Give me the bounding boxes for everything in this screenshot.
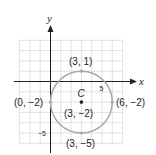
x-tick-label-5: 5 [100,85,104,92]
x-axis-arrow-icon [130,79,137,85]
y-tick-label-neg5: −5 [38,130,46,137]
point-bottom-label: (3, −5) [66,138,95,149]
point-right-label: (6, −2) [116,97,145,108]
point-top-label: (3, 1) [69,56,92,67]
y-axis-label: y [46,12,52,24]
center-dot [80,100,84,104]
point-right [111,101,114,104]
y-axis-arrow-icon [48,25,54,32]
point-bottom [80,131,83,134]
point-left-label: (0, −2) [14,97,43,108]
point-top [80,70,83,73]
coordinate-plane: x y 5 −5 (3, 1) (0, −2) (6, −2) (3, −5) … [0,0,156,155]
x-axis-label: x [138,75,144,87]
center-name-label: C [78,88,86,99]
center-coord-label: (3, −2) [64,108,93,119]
point-left [49,101,52,104]
